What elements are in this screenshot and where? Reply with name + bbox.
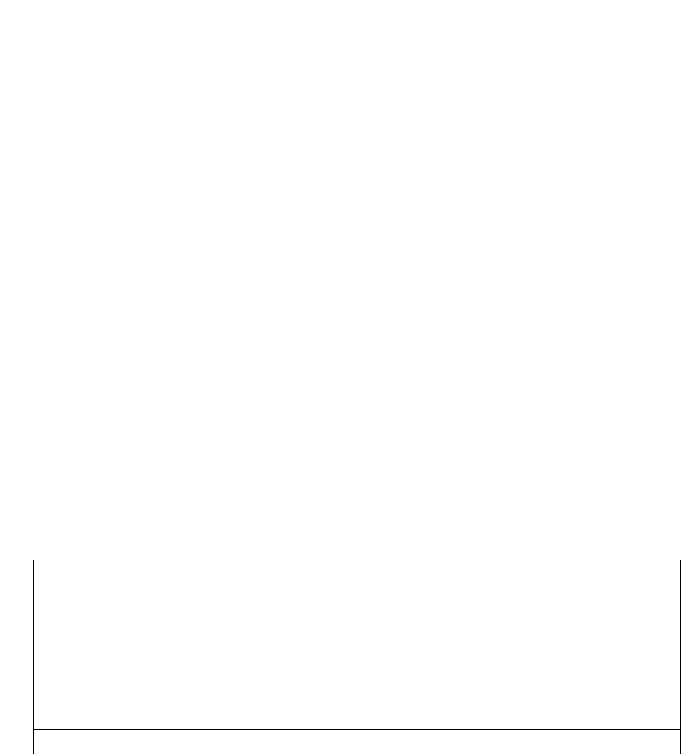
smith-chart-graphic xyxy=(0,0,685,754)
figure-caption-box xyxy=(33,729,681,754)
figure-root xyxy=(0,0,685,754)
